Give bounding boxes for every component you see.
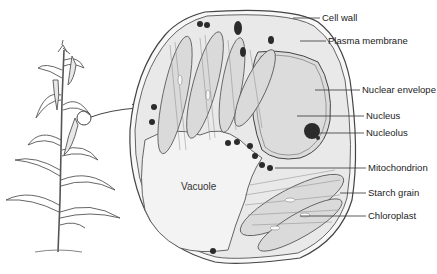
label-starch-grain: Starch grain [368,188,419,198]
label-plasma-membrane: Plasma membrane [328,36,408,46]
label-chloroplast: Chloroplast [368,211,416,221]
label-nucleolus: Nucleolus [366,128,408,138]
label-nucleus: Nucleus [366,111,400,121]
corn-plant-illustration [6,40,138,252]
label-mitochondrion: Mitochondrion [368,163,428,173]
vacuole-label: Vacuole [181,181,216,192]
cell-diagram: Vacuole Cell wall Plasma membrane Nuclea… [0,0,437,274]
mitochondrion [267,165,273,171]
label-nuclear-envelope: Nuclear envelope [362,85,436,95]
label-cell-wall: Cell wall [322,13,357,23]
plant-cell [130,10,356,263]
